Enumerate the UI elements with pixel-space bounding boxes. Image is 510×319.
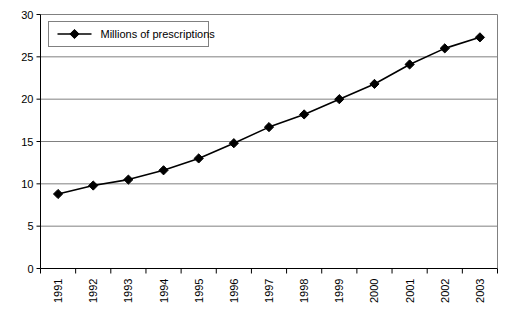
x-tick-label-2000: 2000: [368, 279, 380, 303]
chart-background: [0, 0, 510, 319]
x-tick-label-2003: 2003: [474, 279, 486, 303]
y-tick-label-5: 5: [27, 220, 33, 232]
x-tick-label-1998: 1998: [298, 279, 310, 303]
x-tick-label-1991: 1991: [52, 279, 64, 303]
legend: Millions of prescriptions: [49, 22, 216, 47]
x-tick-label-1999: 1999: [333, 279, 345, 303]
chart-canvas: 051015202530 199119921993199419951996199…: [0, 0, 510, 319]
x-tick-label-1996: 1996: [228, 279, 240, 303]
y-tick-label-25: 25: [21, 51, 33, 63]
y-tick-label-15: 15: [21, 136, 33, 148]
y-tick-label-0: 0: [27, 263, 33, 275]
legend-label-millions-of-prescriptions: Millions of prescriptions: [101, 28, 216, 40]
x-tick-label-1997: 1997: [263, 279, 275, 303]
x-tick-label-2001: 2001: [404, 279, 416, 303]
x-tick-label-2002: 2002: [439, 279, 451, 303]
x-tick-label-1994: 1994: [158, 279, 170, 303]
x-tick-label-1993: 1993: [122, 279, 134, 303]
y-tick-label-30: 30: [21, 9, 33, 21]
line-chart: 051015202530 199119921993199419951996199…: [0, 0, 510, 319]
x-tick-label-1992: 1992: [87, 279, 99, 303]
y-tick-label-10: 10: [21, 178, 33, 190]
x-tick-label-1995: 1995: [193, 279, 205, 303]
y-tick-label-20: 20: [21, 93, 33, 105]
